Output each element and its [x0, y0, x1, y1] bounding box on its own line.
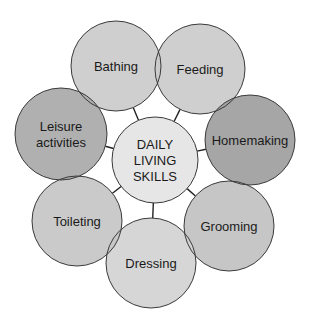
connector-line — [197, 149, 206, 151]
node-label: Feeding — [177, 62, 224, 77]
node-label: activities — [36, 135, 86, 150]
node-label-group-bathing: Bathing — [94, 59, 138, 74]
connector-line — [187, 189, 195, 196]
center-node: DAILYLIVINGSKILLS — [112, 117, 198, 203]
connector-line — [105, 146, 113, 148]
node-label-group-feeding: Feeding — [177, 62, 224, 77]
connector-line — [112, 186, 121, 193]
node-label-group-homemaking: Homemaking — [212, 133, 289, 148]
node-label: DAILY — [137, 137, 174, 152]
node-label-group-grooming: Grooming — [200, 219, 257, 234]
node-label-group-leisure-activities: Leisureactivities — [36, 119, 86, 150]
node-label: Dressing — [125, 256, 176, 271]
daily-living-skills-diagram: BathingFeedingHomemakingGroomingDressing… — [0, 0, 313, 325]
node-label: LIVING — [134, 153, 177, 168]
node-label-group-dressing: Dressing — [125, 256, 176, 271]
connector-line — [133, 108, 138, 121]
node-label: Bathing — [94, 59, 138, 74]
connector-line — [153, 203, 154, 218]
node-label: Grooming — [200, 219, 257, 234]
node-label: Toileting — [53, 214, 101, 229]
node-label: Homemaking — [212, 133, 289, 148]
connector-line — [174, 109, 180, 121]
node-label-group-toileting: Toileting — [53, 214, 101, 229]
node-label: Leisure — [40, 119, 83, 134]
node-label: SKILLS — [133, 169, 177, 184]
